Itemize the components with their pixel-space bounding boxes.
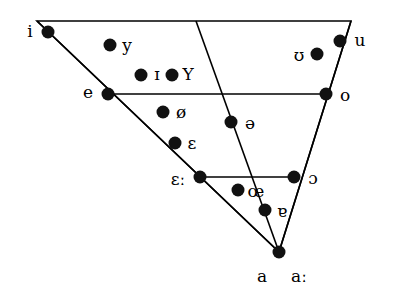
vowel-label-8: ø bbox=[176, 104, 186, 121]
vowel-marker-5 bbox=[334, 35, 347, 48]
vowel-label-11: ɛː bbox=[171, 171, 186, 188]
vowel-label-2: ɪ bbox=[154, 66, 159, 83]
vowel-label-7: o bbox=[340, 87, 350, 104]
vowel-label-16: aː bbox=[291, 268, 307, 285]
vowel-marker-6 bbox=[102, 88, 115, 101]
vowel-label-13: œ bbox=[248, 183, 265, 200]
vowel-marker-8 bbox=[157, 106, 170, 119]
vowel-marker-0 bbox=[42, 26, 55, 39]
vowel-quadrilateral-chart: iyɪYʊueoøəɛɛːɔœɐaaː bbox=[0, 0, 394, 302]
vowel-label-6: e bbox=[83, 84, 93, 101]
line-front-diagonal bbox=[37, 21, 279, 252]
chart-canvas bbox=[0, 0, 394, 302]
vowel-marker-7 bbox=[320, 88, 333, 101]
vowel-label-4: ʊ bbox=[294, 47, 305, 64]
vowel-marker-14 bbox=[259, 204, 272, 217]
vowel-label-12: ɔ bbox=[308, 170, 318, 187]
vowel-marker-15 bbox=[273, 246, 286, 259]
vowel-marker-11 bbox=[194, 171, 207, 184]
vowel-label-0: i bbox=[27, 23, 32, 40]
vowel-marker-2 bbox=[135, 69, 148, 82]
vowel-label-15: a bbox=[257, 268, 267, 285]
vowel-marker-4 bbox=[311, 48, 324, 61]
vowel-label-3: Y bbox=[182, 66, 193, 83]
vowel-label-1: y bbox=[122, 37, 132, 54]
vowel-label-10: ɛ bbox=[188, 135, 197, 152]
vowel-marker-13 bbox=[232, 184, 245, 197]
vowel-label-14: ɐ bbox=[277, 203, 287, 220]
vowel-marker-1 bbox=[104, 39, 117, 52]
vowel-label-5: u bbox=[355, 32, 366, 49]
vowel-marker-12 bbox=[288, 171, 301, 184]
vowel-label-9: ə bbox=[245, 115, 255, 132]
line-central-diagonal bbox=[196, 21, 279, 252]
vowel-marker-3 bbox=[166, 69, 179, 82]
vowel-marker-9 bbox=[225, 116, 238, 129]
vowel-marker-10 bbox=[169, 137, 182, 150]
